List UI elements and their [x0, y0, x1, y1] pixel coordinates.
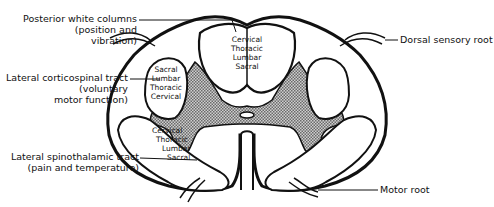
label-line: (voluntary	[2, 83, 128, 94]
tract-layer: Sacral	[224, 62, 270, 71]
tract-layer: Sacral	[145, 65, 187, 74]
tract-layer: Cervical	[150, 126, 196, 135]
central-canal	[240, 112, 254, 118]
corticospinal-tract-layers: Sacral Lumbar Thoracic Cervical	[145, 65, 187, 101]
label-motor-root: Motor root	[380, 184, 430, 195]
label-line: (position and	[2, 24, 137, 35]
tract-layer: Lumbar	[150, 144, 196, 153]
label-line: Lateral corticospinal tract	[2, 72, 128, 83]
spinothalamic-tract-layers: Cervical Thoracic Lumbar Sacral	[150, 126, 196, 162]
tract-layer: Thoracic	[150, 135, 196, 144]
label-posterior-white-columns: Posterior white columns (position and vi…	[2, 13, 137, 46]
label-line: Posterior white columns	[2, 13, 137, 24]
tract-layer: Lumbar	[224, 53, 270, 62]
tract-layer: Lumbar	[145, 74, 187, 83]
tract-layer: Cervical	[224, 35, 270, 44]
label-line: motor function)	[2, 94, 128, 105]
lateral-region-right	[307, 58, 349, 119]
tract-layer: Thoracic	[145, 83, 187, 92]
tract-layer: Thoracic	[224, 44, 270, 53]
tract-layer: Cervical	[145, 92, 187, 101]
label-lateral-spinothalamic-tract: Lateral spinothalamic tract (pain and te…	[2, 151, 139, 173]
posterior-tract-layers: Cervical Thoracic Lumbar Sacral	[224, 35, 270, 71]
tract-layer: Sacral	[150, 153, 196, 162]
label-line: Lateral spinothalamic tract	[2, 151, 139, 162]
anterior-median-fissure	[241, 131, 253, 190]
label-lateral-corticospinal-tract: Lateral corticospinal tract (voluntary m…	[2, 72, 128, 105]
label-line: (pain and temperature)	[2, 162, 139, 173]
label-dorsal-sensory-root: Dorsal sensory root	[400, 34, 493, 45]
label-line: vibration)	[2, 35, 137, 46]
